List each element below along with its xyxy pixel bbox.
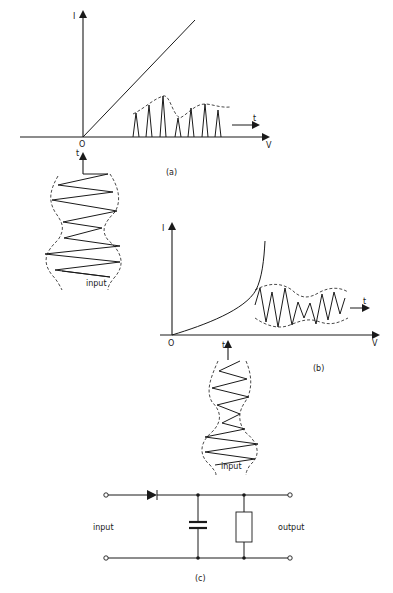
exponential-characteristic — [172, 241, 265, 335]
circuit-input-label: input — [93, 523, 114, 532]
circuit-output-label: output — [278, 523, 304, 532]
input-time-label: t — [76, 149, 79, 158]
origin-label: O — [168, 339, 174, 348]
output-terminal-bottom — [288, 556, 292, 560]
y-axis-label: I — [73, 12, 75, 21]
input-waveform-a: t input — [45, 149, 121, 290]
resistor-symbol — [236, 495, 252, 558]
input-waveform-b: t input — [202, 341, 258, 475]
x-axis-label: V — [372, 339, 378, 348]
origin-label: O — [79, 140, 85, 149]
input-time-label: t — [222, 341, 225, 350]
caption-c: (c) — [195, 574, 206, 583]
caption-a: (a) — [166, 168, 177, 177]
panel-a: I V O t (a) t input — [20, 12, 272, 290]
output-waveform-b — [255, 284, 348, 327]
input-terminal-top — [104, 493, 108, 497]
capacitor-symbol — [189, 495, 207, 558]
input-label-b: input — [221, 462, 242, 471]
input-terminal-bottom — [104, 556, 108, 560]
caption-b: (b) — [313, 364, 324, 373]
y-axis-label: I — [162, 224, 164, 233]
demodulation-figure: I V O t (a) t input — [0, 0, 393, 593]
output-terminal-top — [288, 493, 292, 497]
time-label: t — [253, 114, 256, 123]
x-axis-label: V — [266, 141, 272, 150]
rectified-pulses — [133, 96, 230, 137]
time-label: t — [363, 297, 366, 306]
diode-symbol — [147, 490, 157, 500]
input-label-a: input — [86, 279, 107, 288]
panel-c-circuit: input output (c) — [93, 490, 304, 583]
panel-b: I V O t (b) t input — [160, 224, 378, 475]
